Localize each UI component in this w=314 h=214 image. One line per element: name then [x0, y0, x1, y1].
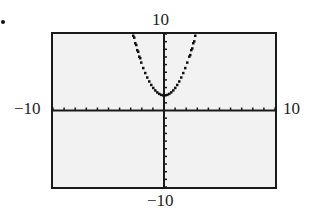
graph-window	[0, 0, 314, 214]
